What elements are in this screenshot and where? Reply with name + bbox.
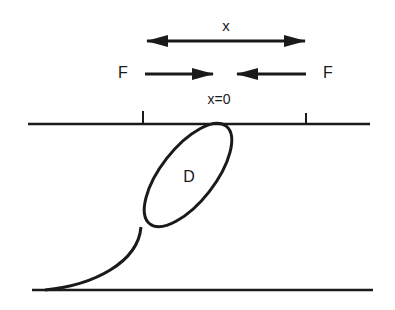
origin-label: x=0 xyxy=(208,92,231,106)
upper-line xyxy=(28,111,370,124)
displacement-label: x xyxy=(222,18,230,33)
dislocation-label: D xyxy=(183,169,195,185)
force-label-left: F xyxy=(118,65,128,81)
dislocation-tail xyxy=(45,227,141,290)
diagram-svg xyxy=(0,0,395,310)
diagram-canvas: x F F x=0 D xyxy=(0,0,395,310)
force-label-right: F xyxy=(323,65,333,81)
